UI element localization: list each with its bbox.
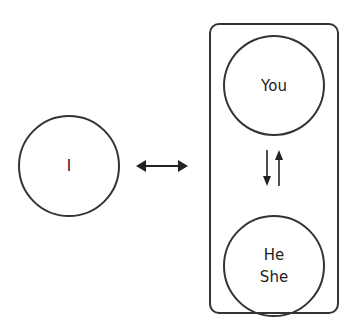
node-he-label: He: [260, 244, 288, 266]
node-he-she: He She: [223, 215, 325, 317]
node-i-label: I: [67, 155, 71, 177]
double-arrow-vertical-icon: [262, 150, 286, 186]
node-you: You: [223, 35, 325, 136]
node-you-label: You: [261, 75, 287, 97]
double-arrow-horizontal-icon: [136, 158, 188, 174]
node-she-label: She: [260, 266, 288, 288]
node-i: I: [18, 115, 120, 217]
